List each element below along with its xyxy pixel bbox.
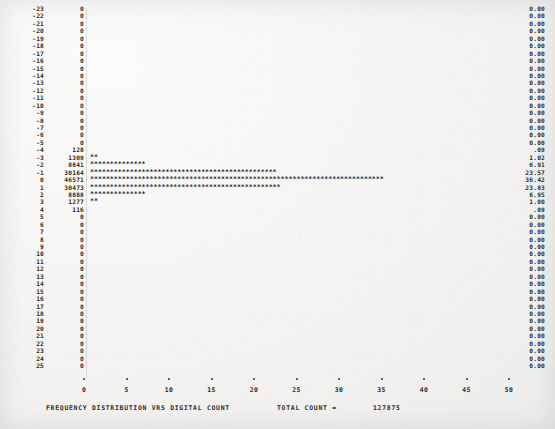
percent-value: .09: [511, 206, 545, 213]
percent-value: 0.00: [511, 20, 545, 27]
histogram-bar: **************: [90, 191, 146, 198]
percent-value: 36.42: [511, 176, 545, 183]
x-axis-tick-label: 15: [207, 386, 215, 394]
frequency-value: 0: [50, 303, 84, 310]
histogram-row: 1300.00: [0, 273, 555, 280]
x-axis-tick: [83, 378, 85, 380]
digital-count-label: 16: [18, 295, 44, 302]
frequency-value: 30164: [50, 169, 84, 176]
frequency-value: 0: [50, 265, 84, 272]
digital-count-label: -18: [18, 42, 44, 49]
percent-value: 23.57: [511, 169, 545, 176]
digital-count-label: 22: [18, 340, 44, 347]
histogram-row: 2300.00: [0, 347, 555, 354]
digital-count-label: 5: [18, 213, 44, 220]
percent-value: 0.00: [511, 355, 545, 362]
frequency-value: 8888: [50, 191, 84, 198]
histogram-row: 1500.00: [0, 288, 555, 295]
frequency-value: 0: [50, 5, 84, 12]
histogram-row: 900.00: [0, 243, 555, 250]
histogram-bar: **: [90, 154, 98, 161]
histogram-row: 600.00: [0, 221, 555, 228]
digital-count-label: -13: [18, 79, 44, 86]
percent-value: 23.83: [511, 184, 545, 191]
frequency-value: 0: [50, 213, 84, 220]
histogram-row: 31277**1.00: [0, 198, 555, 205]
ascii-histogram-plot: -2300.00-2200.00-2100.00-2000.00-1900.00…: [0, 0, 555, 429]
frequency-value: 0: [50, 131, 84, 138]
x-axis-tick-labels: 05101520253035404550: [0, 386, 555, 396]
x-axis-tick-label: 0: [82, 386, 86, 394]
digital-count-label: -11: [18, 94, 44, 101]
histogram-row: 700.00: [0, 228, 555, 235]
digital-count-label: 1: [18, 184, 44, 191]
histogram-row: 2000.00: [0, 325, 555, 332]
histogram-row: -28841**************6.91: [0, 161, 555, 168]
percent-value: 0.00: [511, 27, 545, 34]
histogram-row: -2000.00: [0, 27, 555, 34]
histogram-row: -1900.00: [0, 35, 555, 42]
frequency-value: 0: [50, 295, 84, 302]
frequency-value: 1277: [50, 198, 84, 205]
digital-count-label: 8: [18, 236, 44, 243]
percent-value: 0.00: [511, 250, 545, 257]
histogram-row: -1300.00: [0, 79, 555, 86]
digital-count-label: -14: [18, 72, 44, 79]
frequency-value: 0: [50, 35, 84, 42]
frequency-value: 0: [50, 362, 84, 369]
histogram-row: 1200.00: [0, 265, 555, 272]
chart-caption: FREQUENCY DISTRIBUTION VRS DIGITAL COUNT…: [0, 404, 555, 418]
percent-value: 1.02: [511, 154, 545, 161]
percent-value: 0.00: [511, 288, 545, 295]
frequency-value: 0: [50, 243, 84, 250]
percent-value: 0.00: [511, 325, 545, 332]
x-axis-tick: [126, 378, 128, 380]
digital-count-label: 6: [18, 221, 44, 228]
digital-count-label: -19: [18, 35, 44, 42]
histogram-row: 1800.00: [0, 310, 555, 317]
histogram-bar: ****************************************…: [90, 169, 277, 176]
digital-count-label: 11: [18, 258, 44, 265]
histogram-bar: ****************************************…: [90, 184, 281, 191]
digital-count-label: -17: [18, 50, 44, 57]
digital-count-label: -1: [18, 169, 44, 176]
histogram-row: 4116.09: [0, 206, 555, 213]
frequency-value: 0: [50, 258, 84, 265]
histogram-row: 1700.00: [0, 303, 555, 310]
percent-value: 0.00: [511, 57, 545, 64]
digital-count-label: -22: [18, 12, 44, 19]
histogram-row: 2400.00: [0, 355, 555, 362]
percent-value: 0.00: [511, 79, 545, 86]
percent-value: 0.00: [511, 340, 545, 347]
histogram-rows: -2300.00-2200.00-2100.00-2000.00-1900.00…: [0, 5, 555, 369]
digital-count-label: 18: [18, 310, 44, 317]
percent-value: 0.00: [511, 87, 545, 94]
x-axis-tick-label: 10: [165, 386, 173, 394]
frequency-value: 0: [50, 273, 84, 280]
percent-value: 0.00: [511, 12, 545, 19]
x-axis-tick: [211, 378, 213, 380]
digital-count-label: -2: [18, 161, 44, 168]
frequency-value: 0: [50, 102, 84, 109]
frequency-value: 0: [50, 332, 84, 339]
histogram-row: -600.00: [0, 131, 555, 138]
frequency-value: 0: [50, 94, 84, 101]
frequency-value: 0: [50, 221, 84, 228]
percent-value: 0.00: [511, 42, 545, 49]
digital-count-label: 24: [18, 355, 44, 362]
histogram-row: -2300.00: [0, 5, 555, 12]
frequency-value: 46571: [50, 176, 84, 183]
digital-count-label: -4: [18, 146, 44, 153]
digital-count-label: 25: [18, 362, 44, 369]
frequency-value: 0: [50, 87, 84, 94]
frequency-value: 116: [50, 206, 84, 213]
digital-count-label: -20: [18, 27, 44, 34]
histogram-bar: **************: [90, 161, 146, 168]
digital-count-label: -8: [18, 117, 44, 124]
x-axis-tick-label: 50: [505, 386, 513, 394]
percent-value: 0.00: [511, 35, 545, 42]
frequency-value: 0: [50, 57, 84, 64]
x-axis-tick-label: 30: [335, 386, 343, 394]
percent-value: 1.00: [511, 198, 545, 205]
frequency-value: 0: [50, 79, 84, 86]
